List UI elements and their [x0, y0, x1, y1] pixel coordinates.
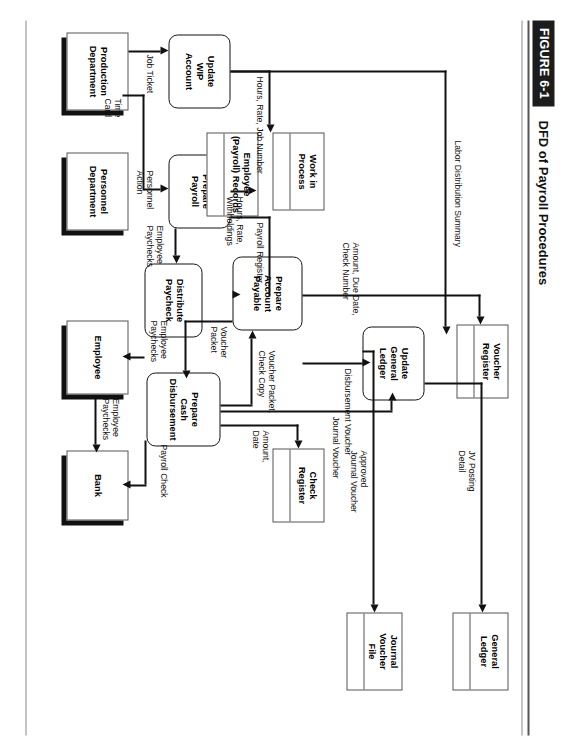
flow-jvpd-h	[480, 382, 482, 604]
flow-emp-paychecks1-arrow	[172, 255, 180, 263]
figure-page: FIGURE 6-1 DFD of Payroll Procedures Pro…	[0, 0, 574, 755]
datastore-divider	[289, 133, 290, 209]
process-prepare-account-payable: Prepare Account Payable	[232, 256, 302, 330]
flow-label-payroll-check: Payroll Check	[158, 444, 168, 497]
figure-title: DFD of Payroll Procedures	[532, 120, 554, 285]
flow-disb-voucher-arrow	[362, 358, 370, 366]
flow-label-time-card: Time Card	[102, 98, 122, 117]
flow-journal-voucher-v	[220, 410, 392, 412]
entity-label: Production Department	[86, 45, 108, 97]
flow-label-voucher-packet: Voucher Packet	[208, 326, 228, 358]
flow-label-hours-rate-job-number: Hours, Rate, Job Number	[254, 76, 264, 173]
process-label: Update WIP Account	[183, 52, 216, 89]
flow-lds-h	[444, 70, 446, 326]
flow-hrw-arrow	[248, 186, 256, 194]
flow-label-amount-due-date-check-number: Amount, Due Date, Check Number	[340, 242, 360, 315]
datastore-divider	[469, 613, 470, 689]
flow-addcn-arrow	[476, 316, 484, 324]
flow-label-jv-posting-detail: JV Posting Detail	[456, 450, 476, 491]
datastore-general-ledger: General Ledger	[452, 612, 508, 690]
flow-label-employee-paychecks-3: Employee Paychecks	[100, 398, 120, 440]
entity-bank: Bank	[66, 450, 128, 520]
flow-time-card-v1	[122, 94, 144, 96]
flow-payroll-check-arrow	[122, 480, 130, 488]
flow-label-labor-distribution-summary: Labor Distribution Summary	[452, 140, 462, 247]
flow-job-ticket-line	[128, 50, 160, 52]
flow-job-ticket-arrow	[160, 46, 168, 54]
datastore-label: Journal Voucher File	[366, 633, 399, 670]
entity-label: Personnel Department	[86, 165, 108, 217]
flow-vpcc-h	[250, 338, 252, 404]
entity-face: Personnel Department	[66, 152, 128, 230]
flow-label-payroll-register: Payroll Register	[254, 222, 264, 283]
datastore-label: General Ledger	[477, 634, 499, 669]
flow-label-hours-rate-withholdings: Hours, Rate, Withholdings	[224, 196, 244, 245]
flow-label-job-ticket: Job Ticket	[144, 54, 154, 93]
flow-label-disbursement-voucher: Disbursement Voucher	[342, 368, 352, 455]
flow-lds-arrow	[442, 326, 450, 334]
entity-label: Employee	[92, 335, 103, 379]
flow-payroll-check-h	[144, 440, 146, 484]
flow-lds-v	[230, 70, 446, 72]
datastore-label: Voucher Register	[479, 342, 501, 379]
datastore-divider	[289, 449, 290, 521]
entity-label: Bank	[92, 474, 103, 497]
figure-number-badge: FIGURE 6-1	[532, 20, 554, 106]
figure-header: FIGURE 6-1 DFD of Payroll Procedures	[528, 20, 554, 735]
flow-journal-voucher-arrow	[388, 392, 396, 400]
entity-face: Bank	[66, 450, 128, 520]
rotated-figure-wrapper: FIGURE 6-1 DFD of Payroll Procedures Pro…	[20, 20, 554, 735]
process-label: Prepare Cash Disbursement	[167, 378, 200, 440]
flow-voucher-packet-h	[184, 320, 186, 370]
flow-hrjn-h	[268, 70, 270, 124]
flow-payroll-check-v	[128, 484, 146, 486]
flow-amount-date-v	[220, 424, 298, 426]
flow-ajv-h	[372, 350, 374, 604]
flow-amount-date-arrow	[294, 440, 302, 448]
datastore-check-register: Check Register	[272, 448, 324, 522]
flow-label-personnel-action: Personnel Action	[134, 170, 154, 209]
flow-amount-date-h	[296, 424, 298, 440]
header-divider	[528, 20, 530, 735]
flow-emp-paychecks2-arrow	[122, 352, 130, 360]
flow-time-card-arrow	[160, 184, 168, 192]
flow-payroll-register-h	[268, 216, 270, 296]
datastore-label: Work in Process	[295, 153, 317, 189]
flow-payroll-register-v	[230, 216, 270, 218]
datastore-divider	[473, 325, 474, 397]
page-rule-top	[521, 20, 522, 735]
flow-addcn-v	[302, 294, 480, 296]
flow-disb-voucher-v	[302, 362, 362, 364]
dfd-canvas: Production Department Personnel Departme…	[28, 20, 520, 735]
flow-label-amount-date: Amount, Date	[250, 430, 270, 462]
entity-personnel-department: Personnel Department	[66, 152, 128, 230]
flow-voucher-packet-v	[184, 320, 232, 322]
process-label: Distribute Paycheck	[162, 278, 184, 321]
flow-emp-paychecks3-h	[94, 398, 96, 444]
flow-vpcc-arrow	[248, 330, 256, 338]
entity-employee: Employee	[66, 320, 128, 394]
flow-label-employee-paychecks-2: Employee Paychecks	[148, 320, 168, 362]
datastore-journal-voucher-file: Journal Voucher File	[346, 612, 402, 690]
process-label: Update General Ledger	[377, 346, 410, 381]
flow-label-approved-journal-voucher: Approved Journal Voucher	[348, 450, 368, 512]
process-update-wip-account: Update WIP Account	[168, 34, 230, 108]
flow-voucher-packet-arrow	[182, 370, 190, 378]
flow-label-voucher-packet-check-copy: Voucher Packet, Check Copy	[256, 350, 276, 413]
flow-emp-paychecks3-arrow	[92, 444, 100, 452]
flow-hrjn-arrow	[266, 124, 274, 132]
flow-journal-voucher-h	[390, 400, 392, 410]
flow-jvpd-v	[424, 382, 482, 384]
flow-vpcc-v	[220, 404, 252, 406]
datastore-label: Check Register	[295, 466, 317, 503]
process-update-general-ledger: Update General Ledger	[362, 326, 424, 400]
flow-jvpd-arrow	[478, 604, 486, 612]
flow-label-journal-voucher: Journal Voucher	[330, 416, 340, 478]
flow-emp-paychecks1-h	[174, 228, 176, 255]
flow-label-employee-paychecks-1: Employee Paychecks	[144, 225, 164, 267]
datastore-divider	[363, 613, 364, 689]
flow-addcn-h	[478, 294, 480, 316]
page-rule-bottom	[25, 20, 26, 735]
process-prepare-cash-disbursement: Prepare Cash Disbursement	[146, 372, 220, 446]
datastore-work-in-process: Work in Process	[272, 132, 324, 210]
